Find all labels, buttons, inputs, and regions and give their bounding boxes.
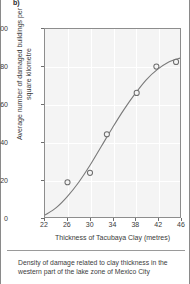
x-tick-label: 42 [154,221,162,228]
x-tick-label: 38 [131,221,139,228]
caption-divider [7,250,185,251]
y-axis-label: Average number of damaged buildings per … [15,4,33,144]
y-tick-mark [41,104,44,105]
data-point [173,59,178,64]
x-tick-mark [44,218,45,221]
y-tick-label: 40 [0,139,8,146]
data-point [65,180,70,185]
x-tick-label: 22 [40,221,48,228]
x-tick-mark [67,218,68,221]
y-tick-label: 0 [4,215,8,222]
data-point [134,90,139,95]
x-axis-label: Thickness of Tacubaya Clay (metres) [44,234,181,241]
y-tick-label: 60 [0,101,8,108]
y-tick-mark [41,142,44,143]
chart-block: 020406080100 22263034384246 Average numb… [1,6,190,250]
y-tick-label: 80 [0,63,8,70]
data-point [154,64,159,69]
y-tick-mark [41,28,44,29]
y-tick-mark [41,66,44,67]
figure-caption: Density of damage related to clay thickn… [18,259,178,276]
y-tick-mark [41,180,44,181]
y-tick-label: 20 [0,177,8,184]
x-tick-mark [158,218,159,221]
x-tick-label: 34 [109,221,117,228]
x-tick-label: 26 [63,221,71,228]
x-tick-label: 30 [86,221,94,228]
y-axis-label-wrapper: Average number of damaged buildings per … [11,4,37,144]
data-point [104,132,109,137]
plot-area [44,28,181,218]
x-tick-mark [90,218,91,221]
data-layer [45,29,180,217]
data-point-markers [65,59,179,184]
y-tick-label: 100 [0,25,8,32]
x-tick-mark [181,218,182,221]
x-tick-mark [135,218,136,221]
x-tick-label: 46 [177,221,185,228]
data-point [87,170,92,175]
trend-curve [45,58,180,215]
figure-container: b) 020406080100 22263034384246 Average n… [0,0,190,284]
x-tick-mark [113,218,114,221]
